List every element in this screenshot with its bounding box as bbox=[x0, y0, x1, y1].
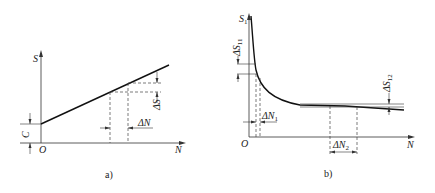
delta-n-arrow-left-icon bbox=[128, 127, 133, 130]
delta-n2-label: ΔN2 bbox=[332, 139, 350, 152]
delta-n-arrow-right-icon bbox=[105, 127, 110, 130]
delta-s11-arrow-up-icon bbox=[237, 74, 240, 79]
delta-s-arrow-down-icon bbox=[156, 78, 159, 83]
linear-curve bbox=[41, 65, 169, 124]
delta-s-arrow-up-icon bbox=[156, 92, 159, 97]
c-arrow-down-icon bbox=[29, 119, 32, 124]
caption-a: a) bbox=[105, 169, 113, 181]
c-arrow-up-icon bbox=[29, 143, 32, 148]
decay-curve bbox=[251, 16, 404, 110]
panel-b: ΔS11 ΔN1 ΔN2 ΔS12 S1 O N b) bbox=[231, 13, 415, 180]
delta-n2-arrow-left-icon bbox=[330, 151, 335, 154]
intercept-label: C bbox=[20, 131, 31, 138]
delta-s12-arrow-down-icon bbox=[388, 99, 391, 104]
delta-n1-arrow-right-icon bbox=[251, 121, 256, 124]
delta-n2-arrow-right-icon bbox=[352, 151, 357, 154]
y-axis-label: S bbox=[33, 53, 38, 64]
figure-canvas: C S O N ΔS ΔN a) bbox=[0, 0, 435, 193]
y-axis-arrow-icon bbox=[39, 50, 43, 57]
delta-s11-label: ΔS11 bbox=[231, 38, 244, 57]
caption-b: b) bbox=[324, 168, 332, 180]
origin-label-b: O bbox=[241, 138, 248, 149]
delta-s-label: ΔS bbox=[151, 99, 162, 111]
x-axis-label-b: N bbox=[406, 139, 415, 150]
y-axis-label-b: S1 bbox=[239, 13, 248, 26]
delta-s11-arrow-down-icon bbox=[237, 59, 240, 64]
x-axis-label: N bbox=[174, 144, 183, 155]
delta-n-label: ΔN bbox=[137, 117, 152, 128]
panel-a: C S O N ΔS ΔN a) bbox=[20, 50, 186, 181]
delta-s12-label: ΔS12 bbox=[381, 74, 394, 93]
origin-label: O bbox=[39, 144, 46, 155]
